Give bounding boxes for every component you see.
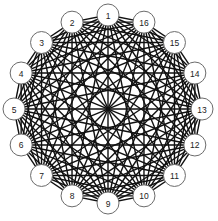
node-14: 14 [184, 62, 206, 84]
node-label: 14 [190, 69, 200, 79]
node-16: 16 [133, 11, 155, 33]
node-label: 13 [197, 105, 207, 115]
node-15: 15 [163, 32, 185, 54]
node-label: 5 [12, 105, 17, 115]
node-4: 4 [10, 62, 32, 84]
node-1: 1 [97, 4, 119, 26]
node-3: 3 [31, 32, 53, 54]
node-label: 1 [106, 11, 111, 21]
node-10: 10 [133, 185, 155, 207]
node-2: 2 [61, 11, 83, 33]
node-12: 12 [184, 134, 206, 156]
node-label: 8 [70, 191, 75, 201]
complete-graph-diagram: 12345678910111213141516 [0, 0, 218, 221]
node-label: 2 [70, 18, 75, 28]
node-label: 4 [19, 69, 24, 79]
node-13: 13 [191, 98, 213, 120]
node-label: 15 [170, 38, 180, 48]
node-11: 11 [163, 164, 185, 186]
node-9: 9 [97, 192, 119, 214]
node-8: 8 [61, 185, 83, 207]
node-5: 5 [3, 98, 25, 120]
node-label: 11 [170, 171, 179, 181]
node-label: 16 [139, 18, 149, 28]
node-label: 6 [19, 140, 24, 150]
node-label: 7 [39, 171, 44, 181]
node-label: 9 [106, 199, 111, 209]
node-6: 6 [10, 134, 32, 156]
node-7: 7 [31, 164, 53, 186]
node-label: 12 [190, 140, 200, 150]
node-label: 10 [139, 191, 149, 201]
node-label: 3 [39, 38, 44, 48]
